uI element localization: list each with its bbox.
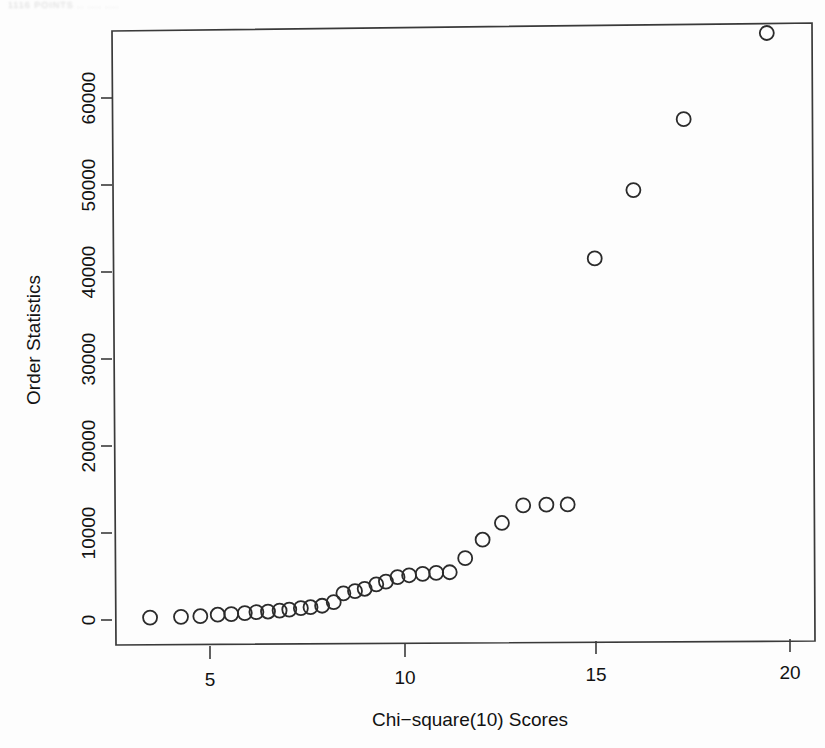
figure-page: 1116 POINTS .. .... .... 0 10000 20000 3…: [0, 0, 825, 748]
data-point: [193, 609, 207, 623]
data-points-layer: [143, 26, 774, 625]
x-axis-title: Chi−square(10) Scores: [372, 709, 568, 730]
data-point: [416, 567, 430, 581]
data-point: [516, 498, 530, 512]
data-point: [677, 112, 691, 126]
y-tick-label-0: 0: [78, 615, 99, 626]
x-tick-label-15: 15: [585, 664, 606, 685]
plot-svg: 0 10000 20000 30000 40000 50000 60000 Or…: [0, 0, 825, 748]
x-tick-label-20: 20: [779, 662, 800, 683]
data-point: [211, 608, 225, 622]
data-point: [143, 611, 157, 625]
data-point: [458, 551, 472, 565]
x-tick-label-10: 10: [394, 667, 415, 688]
y-tick-label-40000: 40000: [78, 246, 99, 299]
data-point: [760, 26, 774, 40]
data-point: [429, 566, 443, 580]
data-point: [369, 577, 383, 591]
data-point: [443, 565, 457, 579]
data-point: [495, 516, 509, 530]
scatter-plot-figure: 0 10000 20000 30000 40000 50000 60000 Or…: [0, 0, 825, 748]
data-point: [539, 498, 553, 512]
y-tick-label-60000: 60000: [78, 72, 99, 125]
data-point: [476, 533, 490, 547]
data-point: [174, 610, 188, 624]
data-point: [588, 251, 602, 265]
x-tick-label-5: 5: [205, 669, 216, 690]
y-tick-label-10000: 10000: [78, 507, 99, 560]
data-point: [561, 497, 575, 511]
y-tick-label-50000: 50000: [78, 159, 99, 212]
y-axis-tick-labels: 0 10000 20000 30000 40000 50000 60000: [78, 72, 99, 626]
data-point: [224, 607, 238, 621]
y-tick-label-20000: 20000: [78, 420, 99, 473]
y-axis-ticks: [101, 98, 112, 620]
y-axis-title: Order Statistics: [23, 275, 44, 405]
x-axis-tick-labels: 5 10 15 20: [205, 662, 801, 690]
data-point: [626, 183, 640, 197]
y-tick-label-30000: 30000: [78, 333, 99, 386]
